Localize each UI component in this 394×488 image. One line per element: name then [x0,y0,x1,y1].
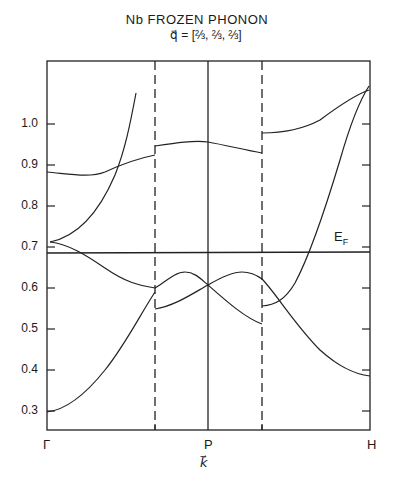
band-4a [47,292,155,412]
band-3a [50,242,155,288]
y-tick-label: 0.6 [8,280,38,294]
fermi-level-label: EF [334,229,348,247]
y-tick-label: 0.7 [8,239,38,253]
y-tick-label: 0.5 [8,321,38,335]
y-ticks-right [362,124,370,411]
x-label-h: H [367,437,376,452]
y-tick-label: 0.3 [8,403,38,417]
x-axis-label-k: k⃗ [200,455,208,470]
band-2a [47,155,155,175]
y-tick-label: 0.4 [8,362,38,376]
band-2c [262,90,369,133]
y-tick-label: 1.0 [8,116,38,130]
x-label-gamma: Γ [43,437,50,452]
y-ticks-left [47,124,55,411]
x-label-p: P [204,437,213,452]
y-tick-label: 0.8 [8,198,38,212]
band-5 [262,86,369,306]
band-1 [50,93,136,242]
fermi-level-line [47,252,370,253]
y-tick-label: 0.9 [8,157,38,171]
